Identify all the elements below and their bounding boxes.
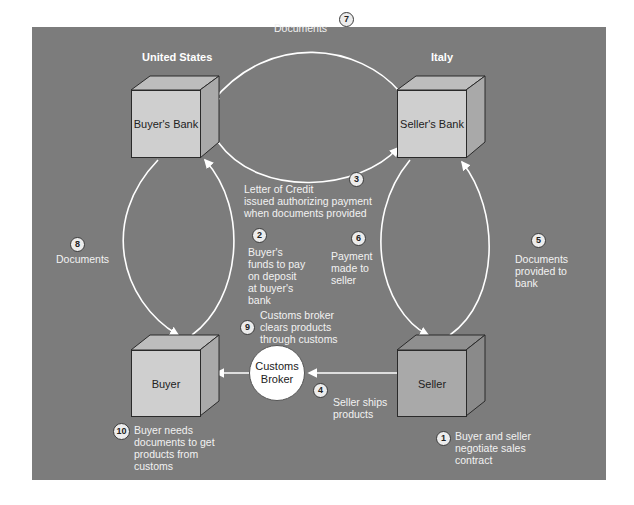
arrow-2 — [192, 160, 234, 335]
step-1-line3: contract — [455, 454, 492, 466]
step-3-line1: Letter of Credit — [244, 183, 313, 195]
arrow-5 — [450, 162, 489, 335]
step-9-line3: through customs — [260, 333, 338, 345]
step-4-line1: Seller ships — [333, 396, 387, 408]
step-5-line1: Documents — [515, 253, 568, 265]
node-customs-broker: Customs Broker — [249, 345, 305, 401]
region-label-italy: Italy — [431, 51, 453, 63]
node-sellers-bank: Seller's Bank — [397, 90, 467, 158]
node-buyers-bank: Buyer's Bank — [131, 90, 201, 158]
step-5-badge: 5 — [531, 233, 546, 248]
arrow-8 — [123, 160, 178, 335]
step-8-text: Documents — [56, 253, 109, 265]
step-5-line3: bank — [515, 277, 538, 289]
step-6-line2: made to — [331, 262, 369, 274]
step-2-line4: at buyer's — [248, 282, 293, 294]
step-10-badge: 10 — [113, 423, 130, 440]
step-2-badge: 2 — [252, 228, 267, 243]
step-6-badge: 6 — [351, 231, 366, 246]
step-1-line1: Buyer and seller — [455, 430, 531, 442]
arrow-7 — [212, 52, 400, 102]
step-3-badge: 3 — [349, 172, 364, 187]
step-10-line2: documents to get — [134, 436, 215, 448]
step-1-badge: 1 — [436, 431, 451, 446]
arrow-3 — [218, 142, 398, 183]
step-1-line2: negotiate sales — [455, 442, 526, 454]
node-buyer: Buyer — [131, 350, 201, 417]
step-5-line2: provided to — [515, 265, 567, 277]
step-10-line1: Buyer needs — [134, 424, 193, 436]
step-8-badge: 8 — [70, 237, 85, 252]
step-3-line2: issued authorizing payment — [244, 195, 372, 207]
step-10-line3: products from — [134, 448, 198, 460]
step-2-line1: Buyer's — [248, 246, 283, 258]
arrow-6 — [381, 160, 428, 335]
step-6-line1: Payment — [331, 250, 372, 262]
region-label-us: United States — [142, 51, 212, 63]
step-2-line2: funds to pay — [248, 258, 305, 270]
step-7-text: Documents — [274, 22, 327, 34]
step-2-line5: bank — [248, 294, 271, 306]
step-4-line2: products — [333, 408, 373, 420]
step-10-line4: customs — [134, 460, 173, 472]
node-seller: Seller — [397, 350, 467, 417]
step-7-badge: 7 — [339, 12, 354, 27]
step-9-line1: Customs broker — [260, 309, 334, 321]
step-2-line3: on deposit — [248, 270, 296, 282]
step-9-badge: 9 — [240, 320, 255, 335]
step-9-line2: clears products — [260, 321, 331, 333]
step-3-line3: when documents provided — [244, 207, 367, 219]
step-6-line3: seller — [331, 274, 356, 286]
step-4-badge: 4 — [313, 383, 328, 398]
